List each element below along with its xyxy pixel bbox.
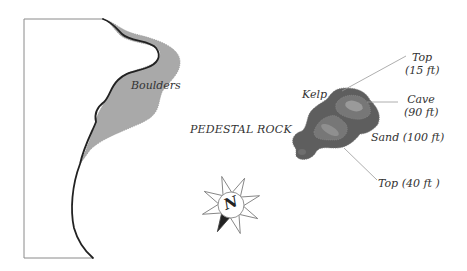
label-boulders: Boulders (131, 79, 181, 92)
label-cave: Cave (90 ft) (404, 93, 438, 119)
label-cave-line2: (90 ft) (404, 106, 438, 119)
label-cave-line1: Cave (404, 93, 438, 106)
shoreline (72, 19, 159, 258)
leader-top-40 (344, 148, 377, 180)
label-pedestal-rock: PEDESTAL ROCK (190, 123, 292, 136)
small-lobe (298, 149, 306, 155)
label-top-15ft: Top (15 ft) (405, 51, 439, 77)
label-sand: Sand (100 ft) (371, 131, 444, 144)
label-top-15ft-line2: (15 ft) (405, 64, 439, 77)
label-top-40ft: Top (40 ft ) (378, 177, 440, 190)
leader-top-15 (342, 56, 406, 91)
label-kelp: Kelp (302, 88, 327, 101)
label-top-15ft-line1: Top (405, 51, 439, 64)
